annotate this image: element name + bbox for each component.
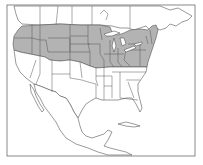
map-svg bbox=[0, 0, 203, 165]
cuba bbox=[118, 122, 140, 127]
range-map bbox=[0, 0, 203, 165]
